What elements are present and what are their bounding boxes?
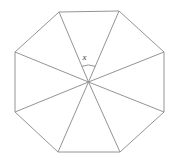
figure-background [0, 0, 170, 164]
geometry-figure: x [0, 0, 170, 164]
angle-label: x [82, 52, 87, 62]
octagon-diagram: x [0, 0, 170, 164]
